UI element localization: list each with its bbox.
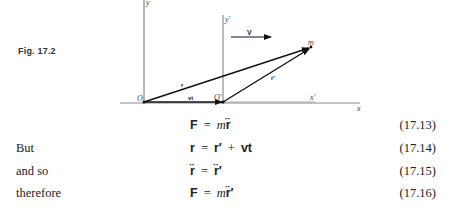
- equation-lead-text: and so: [16, 164, 48, 179]
- origin-prime-point: [221, 100, 224, 103]
- r-label: r: [181, 82, 184, 88]
- y-prime-axis-label: y′: [224, 15, 231, 24]
- equation: r̈=r̈′: [190, 164, 222, 179]
- x-prime-axis-label: x′: [309, 93, 316, 102]
- origin-label: O: [137, 94, 143, 103]
- equation-number: (17.15): [400, 164, 436, 179]
- origin-prime-label: O′: [214, 93, 222, 102]
- equation: F=mr̈: [190, 118, 231, 133]
- equation-number: (17.13): [400, 118, 436, 133]
- equation-row: But r=r′+vt (17.14): [0, 141, 452, 161]
- velocity-label: V: [247, 29, 252, 36]
- y-axis-label: y: [145, 0, 150, 7]
- equation-row: and so r̈=r̈′ (17.15): [0, 164, 452, 184]
- equation-lead-text: therefore: [16, 186, 61, 201]
- vector-r: [144, 48, 309, 102]
- equation: F=mr̈′: [190, 186, 234, 201]
- origin-point: [142, 100, 145, 103]
- reference-frames-diagram: y y′ x x′ O O′ m V r r′ vt: [0, 0, 452, 112]
- vector-r-prime: [223, 49, 309, 102]
- r-prime-label: r′: [271, 75, 275, 81]
- equation-number: (17.14): [400, 141, 436, 156]
- equation-row: F=mr̈ (17.13): [0, 118, 452, 138]
- x-axis-label: x: [356, 104, 361, 112]
- vt-label: vt: [188, 95, 193, 101]
- equation: r=r′+vt: [190, 141, 252, 156]
- equation-row: therefore F=mr̈′ (17.16): [0, 186, 452, 206]
- equation-lead-text: But: [16, 141, 34, 156]
- mass-label: m: [308, 38, 314, 47]
- equation-number: (17.16): [400, 186, 436, 201]
